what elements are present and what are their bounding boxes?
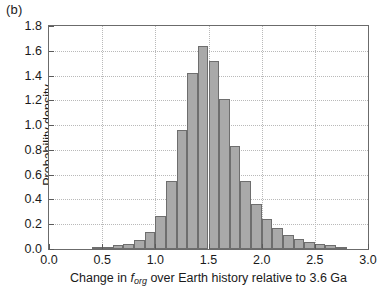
y-axis-tick: [49, 76, 54, 77]
x-axis-tick: [155, 244, 156, 249]
y-axis-tick: [49, 150, 54, 151]
y-axis-tick-label: 1.2: [25, 93, 42, 107]
histogram-bar: [113, 245, 124, 249]
histogram-bar: [134, 240, 145, 249]
panel-label: (b): [6, 2, 23, 17]
histogram-bar: [102, 247, 113, 249]
y-axis-tick-label: 1.0: [25, 118, 42, 132]
histogram-bar: [251, 204, 262, 249]
x-axis-tick: [315, 244, 316, 249]
y-axis-tick: [49, 175, 54, 176]
y-axis-tick: [49, 125, 54, 126]
y-axis-tick: [49, 224, 54, 225]
histogram-bar: [177, 130, 188, 249]
histogram-bar: [315, 244, 326, 249]
histogram-bar: [155, 216, 166, 249]
histogram-bar: [230, 146, 241, 249]
x-axis-tick: [262, 244, 263, 249]
histogram-bar: [219, 99, 230, 249]
histogram-bar: [92, 247, 103, 249]
x-axis-tick-label: 1.5: [200, 253, 217, 267]
x-axis-tick: [102, 244, 103, 249]
histogram-bar: [240, 181, 251, 249]
histogram-bar: [123, 244, 134, 249]
x-axis-title-pre: Change in: [70, 271, 130, 285]
x-axis-title-subscript: org: [134, 276, 147, 286]
x-axis-tick-label: 2.5: [306, 253, 323, 267]
histogram-bar: [166, 181, 177, 249]
histogram-bar: [145, 232, 156, 249]
x-axis-tick: [209, 244, 210, 249]
x-axis-tick: [49, 244, 50, 249]
y-axis-tick-label: 1.6: [25, 44, 42, 58]
y-axis-tick: [49, 249, 54, 250]
x-axis-tick-label: 1.0: [147, 253, 164, 267]
y-axis-tick-label: 0.6: [25, 168, 42, 182]
histogram-bars: [49, 26, 368, 249]
histogram-bar: [198, 46, 209, 249]
y-axis-tick: [49, 100, 54, 101]
histogram-bar: [283, 235, 294, 249]
histogram-bar: [304, 242, 315, 249]
histogram-bar: [272, 228, 283, 249]
y-axis-tick-label: 1.8: [25, 19, 42, 33]
histogram-bar: [187, 73, 198, 249]
histogram-bar: [294, 239, 305, 249]
x-axis-tick-label: 2.0: [253, 253, 270, 267]
y-axis-tick-label: 0.2: [25, 217, 42, 231]
y-axis-tick: [49, 199, 54, 200]
x-axis-title: Change in forg over Earth history relati…: [48, 271, 369, 286]
histogram-bar: [262, 219, 273, 249]
histogram-bar: [336, 247, 347, 249]
y-axis-tick-label: 1.4: [25, 69, 42, 83]
x-axis-title-post: over Earth history relative to 3.6 Ga: [147, 271, 347, 285]
histogram-bar: [209, 61, 220, 249]
plot-area: 0.00.20.40.60.81.01.21.41.61.80.00.51.01…: [48, 25, 369, 250]
x-axis-tick-label: 0.0: [40, 253, 57, 267]
x-axis-tick: [368, 244, 369, 249]
x-axis-tick-label: 3.0: [359, 253, 376, 267]
y-axis-tick: [49, 26, 54, 27]
y-axis-tick-label: 0.8: [25, 143, 42, 157]
y-axis-tick: [49, 51, 54, 52]
y-axis-tick-label: 0.4: [25, 192, 42, 206]
figure-panel-b: (b) Probability density Change in forg o…: [0, 0, 383, 294]
x-axis-tick-label: 0.5: [93, 253, 110, 267]
histogram-bar: [325, 245, 336, 249]
